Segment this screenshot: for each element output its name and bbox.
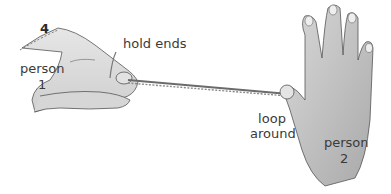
step-number: 4 — [40, 22, 49, 36]
label-hold-ends: hold ends — [123, 37, 186, 51]
label-person-1: person — [20, 62, 65, 76]
label-person-2: person — [324, 136, 369, 150]
label-person-2-number: 2 — [340, 152, 348, 166]
label-loop: loop — [255, 112, 289, 126]
right-hand — [280, 5, 373, 186]
hands-string-illustration — [0, 0, 391, 194]
label-around: around — [250, 127, 296, 141]
string — [128, 80, 300, 97]
label-person-1-number: 1 — [38, 78, 46, 92]
illustration: 4 hold ends person 1 loop around person … — [0, 0, 391, 194]
